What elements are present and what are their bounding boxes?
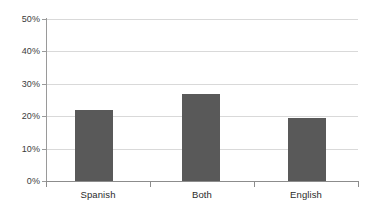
y-tick-label-50: 50% xyxy=(4,14,46,24)
x-tick-2 xyxy=(254,182,255,187)
x-category-label-both: Both xyxy=(150,189,254,201)
y-tick-label-0: 0% xyxy=(4,176,46,186)
y-tick-label-20: 20% xyxy=(4,111,46,121)
bar-spanish xyxy=(75,110,113,181)
x-tick-3 xyxy=(358,182,359,187)
y-tick-label-30: 30% xyxy=(4,79,46,89)
y-tick-label-40: 40% xyxy=(4,46,46,56)
x-tick-0 xyxy=(46,182,47,187)
bars-layer xyxy=(46,19,358,181)
x-axis-line xyxy=(46,181,359,182)
bar-english xyxy=(288,118,326,181)
bar-both xyxy=(182,94,220,181)
y-axis-line xyxy=(46,18,47,182)
x-tick-1 xyxy=(150,182,151,187)
bar-chart: 50% 40% 30% 20% 10% 0% Spanish Both Engl… xyxy=(0,0,373,213)
x-category-label-english: English xyxy=(254,189,358,201)
y-tick-label-10: 10% xyxy=(4,144,46,154)
x-category-label-spanish: Spanish xyxy=(46,189,150,201)
